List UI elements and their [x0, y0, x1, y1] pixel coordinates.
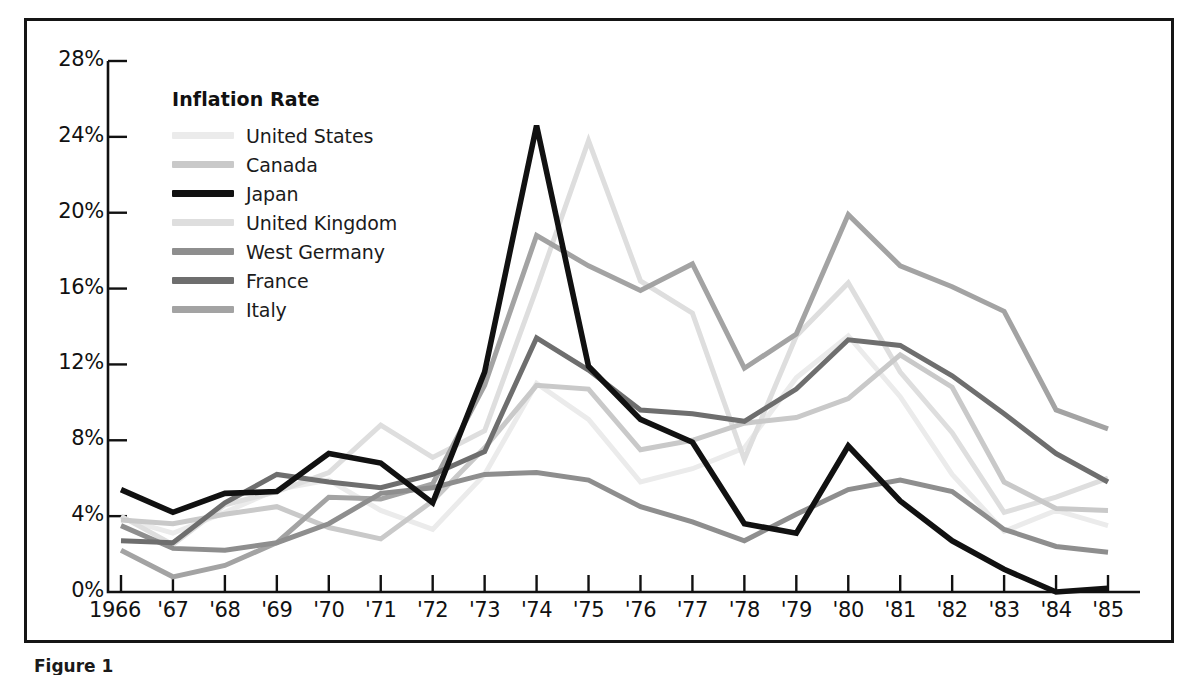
axis-tick-marks — [108, 61, 1108, 592]
series-lines — [121, 125, 1108, 592]
line-chart-plot — [0, 0, 1200, 675]
inflation-rate-figure: Inflation Rate United StatesCanadaJapanU… — [0, 0, 1200, 675]
series-line-japan — [121, 125, 1108, 592]
figure-caption: Figure 1 — [34, 656, 113, 675]
series-line-united-states — [121, 336, 1108, 533]
